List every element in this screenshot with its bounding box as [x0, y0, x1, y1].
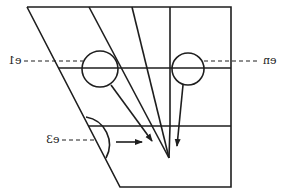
converging-line-3 [169, 126, 170, 158]
left-circle [82, 51, 118, 87]
label-en: en [263, 55, 277, 66]
outer-boundary [27, 7, 231, 187]
label-e1: e1 [8, 55, 22, 66]
trapezoid-diagram [0, 0, 285, 196]
right-circle [172, 53, 204, 85]
right-circle-arrow [177, 85, 183, 146]
bottom-semicircle [86, 117, 109, 158]
converging-line-1 [89, 7, 169, 158]
converging-line-2 [132, 7, 169, 158]
label-e3: e3 [46, 134, 60, 145]
